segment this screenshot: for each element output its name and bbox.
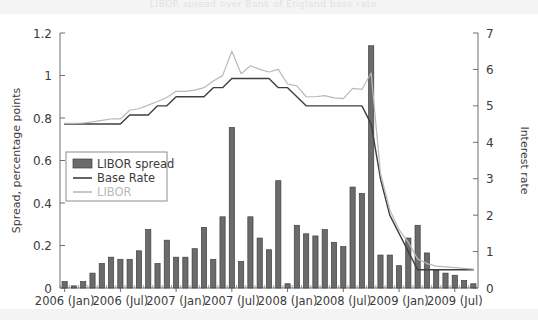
right-tick-label: 7 [486,27,494,41]
bar [443,273,448,288]
left-tick-label: 1.2 [33,27,52,41]
bar [322,230,327,288]
bar [211,259,216,288]
x-tick-label: 2009 (Jul) [427,294,483,308]
bar [118,259,123,288]
bar [174,257,179,288]
bar [359,193,364,288]
bar [201,227,206,288]
legend-label: Base Rate [97,171,155,185]
bar [62,282,67,288]
bar [341,247,346,288]
bar [378,255,383,288]
bar [471,284,476,288]
x-tick-label: 2009 (Jan) [369,294,429,308]
bar [108,257,113,288]
x-tick-label: 2008 (Jul) [315,294,371,308]
bar [220,217,225,288]
bar [99,264,104,288]
left-axis-title: Spread, percentage points [10,87,23,233]
right-tick-label: 3 [486,172,494,186]
left-tick-label: 0.6 [33,154,52,168]
bar [164,240,169,288]
bar [350,187,355,288]
bar [266,250,271,288]
chart-canvas: 00.20.40.60.811.2012345672006 (Jan)2006 … [0,0,538,320]
bar [387,255,392,288]
bar [81,282,86,288]
x-tick-label: 2006 (Jul) [92,294,148,308]
bar [434,270,439,288]
x-tick-label: 2006 (Jan) [35,294,95,308]
chart-figure: LIBOR spread over Bank of England base r… [0,0,538,320]
x-tick-label: 2007 (Jan) [146,294,206,308]
bar [304,234,309,288]
bar [239,261,244,288]
bar [257,238,262,288]
x-tick-label: 2007 (Jul) [204,294,260,308]
bar [294,225,299,288]
bar [127,259,132,288]
bar [369,46,374,288]
bar [313,236,318,288]
bar [183,257,188,288]
left-tick-label: 0.2 [33,239,52,253]
bar [248,217,253,288]
bar [155,264,160,288]
bar [331,242,336,288]
legend-swatch-bar [73,159,92,168]
legend-label: LIBOR [97,185,132,199]
bar [276,181,281,288]
right-tick-label: 5 [486,99,494,113]
left-tick-label: 0.8 [33,112,52,126]
left-tick-label: 1 [44,69,52,83]
bar [136,251,141,288]
bar [192,249,197,288]
right-tick-label: 4 [486,136,494,150]
right-tick-label: 0 [486,282,494,296]
bar [461,281,466,288]
bar [71,286,76,288]
bar [285,284,290,288]
bar [396,266,401,288]
bar [146,230,151,288]
right-axis-title: Interest rate [518,126,531,194]
left-tick-label: 0.4 [33,197,52,211]
bar [452,275,457,288]
right-tick-label: 1 [486,245,494,259]
right-tick-label: 6 [486,63,494,77]
legend-label: LIBOR spread [97,157,174,171]
right-tick-label: 2 [486,209,494,223]
bar [90,273,95,288]
x-tick-label: 2008 (Jan) [258,294,318,308]
bar [229,128,234,288]
